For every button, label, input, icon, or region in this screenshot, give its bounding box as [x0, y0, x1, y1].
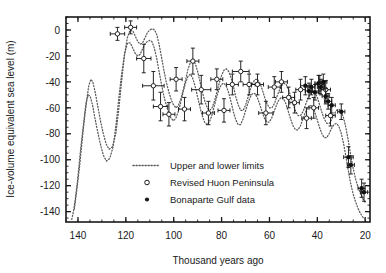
x-tick-label: 140 [70, 230, 87, 241]
y-tick-label: -120 [40, 180, 60, 191]
x-tick-label: 40 [312, 230, 324, 241]
y-axis-title: Ice-volume equivalent sea level (m) [5, 40, 16, 197]
legend-label-bonaparte: Bonaparte Gulf data [170, 194, 256, 205]
legend-label-limits: Upper and lower limits [170, 160, 264, 171]
y-tick-label: -60 [46, 103, 61, 114]
x-axis-title: Thousand years ago [172, 255, 264, 266]
x-tick-label: 20 [360, 230, 372, 241]
x-tick-label: 120 [117, 230, 134, 241]
x-tick-label: 80 [216, 230, 228, 241]
chart-svg: 140120100806040200-20-40-60-80-100-120-1… [0, 0, 386, 273]
y-tick-label: -20 [46, 51, 61, 62]
y-tick-label: -40 [46, 77, 61, 88]
y-tick-label: -80 [46, 128, 61, 139]
x-tick-label: 60 [264, 230, 276, 241]
legend-label-huon: Revised Huon Peninsula [170, 177, 275, 188]
y-tick-label: 0 [54, 25, 60, 36]
sea-level-chart-figure: 140120100806040200-20-40-60-80-100-120-1… [0, 0, 386, 273]
legend-filled-circle-marker [145, 197, 149, 201]
y-tick-label: -140 [40, 206, 60, 217]
y-tick-label: -100 [40, 154, 60, 165]
x-tick-label: 100 [165, 230, 182, 241]
